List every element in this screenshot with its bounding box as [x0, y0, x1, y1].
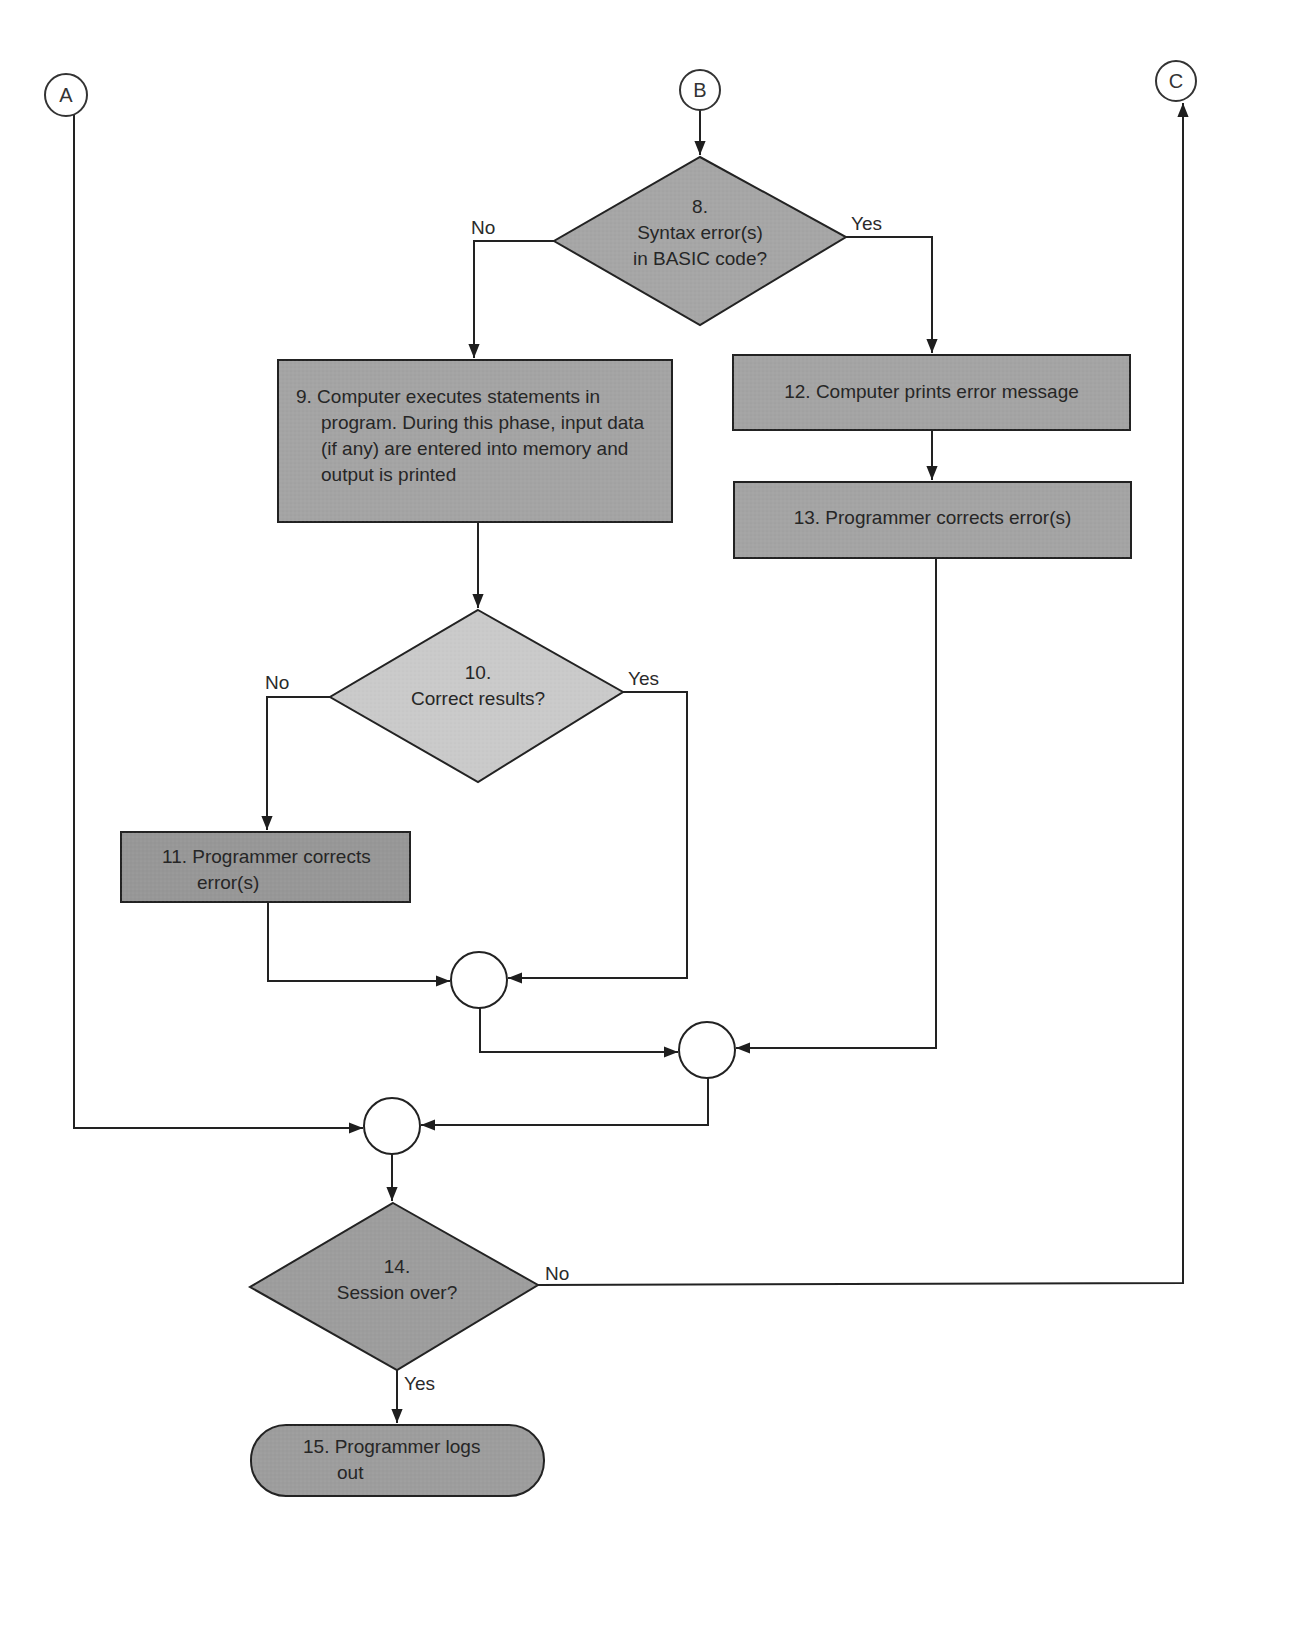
process-11-line1: 11. Programmer corrects: [162, 844, 402, 870]
decision-8-line2: in BASIC code?: [600, 246, 800, 272]
terminal-15-text: 15. Programmer logs out: [303, 1434, 533, 1486]
decision-14-text: 14. Session over?: [297, 1254, 497, 1306]
edge-label-10-yes: Yes: [628, 666, 659, 692]
decision-8-number: 8.: [600, 194, 800, 220]
edge-8-no-to-9: [474, 241, 554, 358]
terminal-15-line2: out: [303, 1460, 533, 1486]
edge-8-yes-to-12: [846, 237, 932, 353]
process-9-text: 9. Computer executes statements in progr…: [296, 384, 666, 488]
connector-b-label: B: [680, 70, 720, 110]
edge-a-to-junction3: [74, 115, 363, 1128]
junction-1: [451, 952, 507, 1008]
edge-junction1-to-junction2: [480, 1007, 678, 1052]
edge-junction2-to-junction3: [421, 1077, 708, 1125]
junction-3: [364, 1098, 420, 1154]
decision-10-number: 10.: [378, 660, 578, 686]
process-9-line1: 9. Computer executes statements in: [296, 384, 666, 410]
edge-label-8-no: No: [471, 215, 495, 241]
edge-11-to-junction1: [268, 902, 450, 981]
edge-13-to-junction2: [736, 558, 936, 1048]
edge-10-no-to-11: [267, 697, 330, 830]
junction-2: [679, 1022, 735, 1078]
decision-10-text: 10. Correct results?: [378, 660, 578, 712]
process-9-line3: (if any) are entered into memory and: [296, 436, 666, 462]
connector-a-label: A: [46, 75, 86, 115]
edge-label-10-no: No: [265, 670, 289, 696]
process-11-text: 11. Programmer corrects error(s): [162, 844, 402, 896]
decision-14-number: 14.: [297, 1254, 497, 1280]
connector-c-label: C: [1156, 61, 1196, 101]
decision-14-line1: Session over?: [297, 1280, 497, 1306]
process-9-line4: output is printed: [296, 462, 666, 488]
process-13-text: 13. Programmer corrects error(s): [734, 505, 1131, 531]
process-9-line2: program. During this phase, input data: [296, 410, 666, 436]
terminal-15-line1: 15. Programmer logs: [303, 1434, 533, 1460]
edge-label-8-yes: Yes: [851, 211, 882, 237]
edge-label-14-yes: Yes: [404, 1371, 435, 1397]
edge-label-14-no: No: [545, 1261, 569, 1287]
decision-8-line1: Syntax error(s): [600, 220, 800, 246]
process-12-text: 12. Computer prints error message: [733, 379, 1130, 405]
process-11-line2: error(s): [162, 870, 402, 896]
decision-10-line1: Correct results?: [378, 686, 578, 712]
decision-8-text: 8. Syntax error(s) in BASIC code?: [600, 194, 800, 272]
